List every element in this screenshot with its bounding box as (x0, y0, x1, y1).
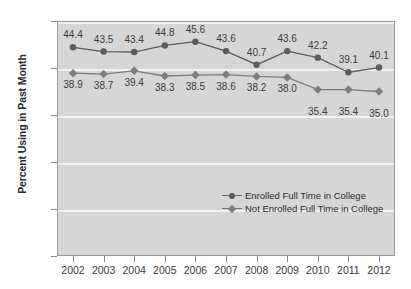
gridline (58, 163, 394, 165)
data-label: 40.7 (237, 47, 277, 58)
line-chart: Percent Using in Past Month 50403020100 … (0, 0, 411, 289)
legend-label-not-enrolled: Not Enrolled Full Time in College (245, 203, 383, 215)
diamond-marker-icon (222, 204, 242, 214)
legend-item-not-enrolled[interactable]: Not Enrolled Full Time in College (222, 202, 383, 215)
x-tick-mark (348, 256, 349, 262)
data-label: 38.0 (267, 83, 307, 94)
y-tick-mark (51, 256, 57, 257)
x-tick-mark (134, 256, 135, 262)
legend-label-enrolled: Enrolled Full Time in College (245, 190, 366, 202)
legend: Enrolled Full Time in College Not Enroll… (222, 189, 383, 215)
y-tick-mark (51, 209, 57, 210)
y-axis-title: Percent Using in Past Month (16, 24, 28, 224)
x-tick-label: 2012 (359, 264, 399, 276)
y-tick-mark (51, 162, 57, 163)
x-tick-mark (226, 256, 227, 262)
x-tick-mark (287, 256, 288, 262)
x-tick-mark (165, 256, 166, 262)
data-label: 40.1 (359, 50, 399, 61)
x-tick-mark (379, 256, 380, 262)
y-tick-mark (51, 68, 57, 69)
data-label: 43.6 (206, 33, 246, 44)
legend-item-enrolled[interactable]: Enrolled Full Time in College (222, 189, 383, 202)
y-tick-mark (51, 115, 57, 116)
x-tick-mark (104, 256, 105, 262)
data-label: 42.2 (298, 40, 338, 51)
gridline (58, 22, 394, 24)
data-label: 35.0 (359, 108, 399, 119)
x-tick-mark (73, 256, 74, 262)
gridline (58, 69, 394, 71)
x-tick-mark (257, 256, 258, 262)
x-tick-mark (318, 256, 319, 262)
x-tick-mark (195, 256, 196, 262)
circle-marker-icon (222, 191, 242, 201)
y-tick-mark (51, 21, 57, 22)
